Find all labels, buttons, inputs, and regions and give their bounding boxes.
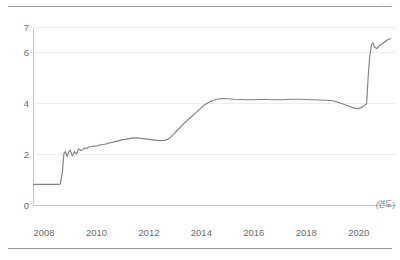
- x-tick-label: 2008: [33, 227, 54, 238]
- x-tick-label: 2018: [296, 227, 317, 238]
- x-tick-label: 2016: [243, 227, 264, 238]
- x-tick-label: 2020: [348, 227, 369, 238]
- figure-container: ▭ ▭ 02467 2008201020122014201620182020 (…: [0, 0, 400, 260]
- x-axis-unit-label: (연도): [376, 198, 395, 209]
- x-tick-label: 2014: [191, 227, 212, 238]
- x-axis-tick-labels: 2008201020122014201620182020: [0, 0, 400, 260]
- x-tick-label: 2012: [138, 227, 159, 238]
- x-tick-label: 2010: [86, 227, 107, 238]
